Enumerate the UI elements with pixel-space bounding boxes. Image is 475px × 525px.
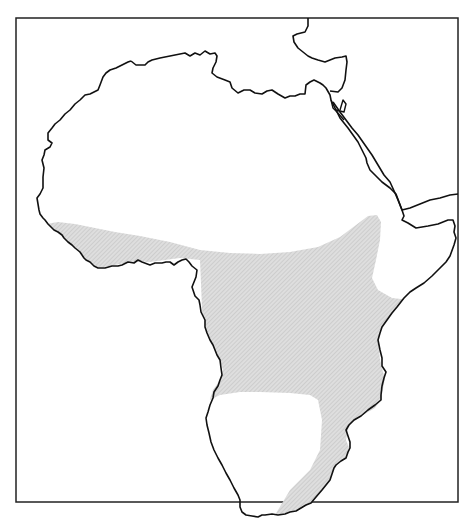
map-canvas [0,0,475,525]
africa-map [0,0,475,525]
europe-coastline [293,18,347,92]
africa-coastline [131,51,331,100]
shaded-range [40,215,430,520]
arabia-coastline [333,102,458,210]
